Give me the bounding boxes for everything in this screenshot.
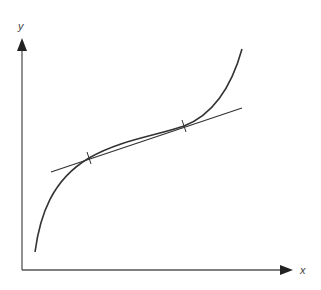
x-axis-label: x: [299, 264, 306, 276]
y-axis-arrow-icon: [17, 38, 27, 51]
diagram-canvas: y x: [0, 0, 321, 290]
tangent-line: [51, 108, 242, 172]
x-axis-arrow-icon: [280, 265, 293, 275]
function-curve: [35, 49, 242, 252]
y-axis-label: y: [17, 20, 25, 32]
